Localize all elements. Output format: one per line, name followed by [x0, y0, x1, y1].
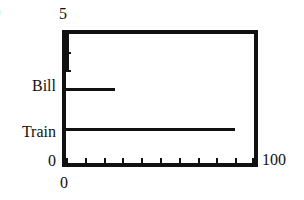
chart-figure: 0 5 Bill Train 0 0 100: [0, 0, 304, 200]
x-axis-tick: [66, 158, 68, 163]
y-axis-min-label: 0: [0, 153, 56, 169]
y-axis-category-label-train: Train: [0, 124, 56, 140]
bar-train: [66, 128, 235, 131]
y-axis-category-label-bill: Bill: [0, 78, 56, 94]
bar-bill: [66, 88, 115, 91]
x-axis-tick: [122, 158, 124, 163]
x-axis-max-label: 100: [262, 152, 304, 168]
x-axis-tick: [104, 158, 106, 163]
x-axis-tick: [85, 158, 87, 163]
x-axis-tick: [198, 158, 200, 163]
x-axis-tick: [252, 158, 254, 163]
plot-frame: [62, 30, 258, 167]
plot-area: [66, 34, 254, 163]
x-axis-tick: [235, 158, 237, 163]
cropped-edge-label: 0: [0, 4, 6, 21]
y-axis-tick: [66, 70, 71, 72]
x-axis-tick: [216, 158, 218, 163]
x-axis-min-label: 0: [52, 175, 76, 191]
data-spike: [66, 34, 69, 70]
x-axis-tick: [179, 158, 181, 163]
x-axis-tick: [160, 158, 162, 163]
x-axis-tick: [141, 158, 143, 163]
y-axis-max-label: 5: [46, 6, 80, 22]
